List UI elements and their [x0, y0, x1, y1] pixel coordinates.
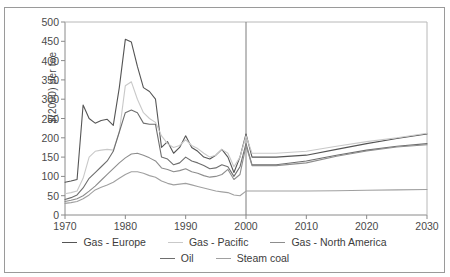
chart-frame: $(2000) per toe 050100150200250300350400… — [4, 7, 445, 273]
axis-lines — [61, 22, 427, 219]
plot-area — [65, 22, 427, 215]
x-tick-label: 2020 — [355, 221, 378, 232]
legend-item-label: Gas - Pacific — [189, 236, 249, 248]
x-tick-label: 1980 — [114, 221, 137, 232]
legend-item[interactable]: Gas - Europe — [62, 236, 145, 248]
legend-item[interactable]: Steam coal — [216, 252, 290, 264]
legend-swatch-icon — [216, 258, 231, 259]
legend-item-label: Gas - Europe — [83, 236, 145, 248]
figure-title-clipped — [0, 0, 450, 7]
x-tick-label: 2030 — [415, 221, 438, 232]
legend-row-primary: Gas - EuropeGas - PacificGas - North Ame… — [62, 236, 386, 248]
legend-swatch-icon — [160, 258, 175, 259]
legend-item-label: Gas - North America — [291, 236, 386, 248]
legend-swatch-icon — [168, 242, 183, 243]
series-canvas — [65, 22, 427, 215]
x-tick-label: 2010 — [295, 221, 318, 232]
legend-item[interactable]: Gas - North America — [270, 236, 386, 248]
legend-item[interactable]: Gas - Pacific — [168, 236, 249, 248]
legend-swatch-icon — [62, 242, 77, 243]
legend-item-label: Steam coal — [237, 252, 290, 264]
legend-row-secondary: OilSteam coal — [160, 252, 289, 264]
chart-figure: $(2000) per toe 050100150200250300350400… — [0, 0, 450, 277]
legend-item-label: Oil — [181, 252, 194, 264]
legend-item[interactable]: Oil — [160, 252, 194, 264]
legend-swatch-icon — [270, 242, 285, 243]
x-tick-label: 2000 — [234, 221, 257, 232]
x-tick-label: 1990 — [174, 221, 197, 232]
x-tick-label: 1970 — [53, 221, 76, 232]
chart-legend: Gas - EuropeGas - PacificGas - North Ame… — [5, 236, 444, 264]
